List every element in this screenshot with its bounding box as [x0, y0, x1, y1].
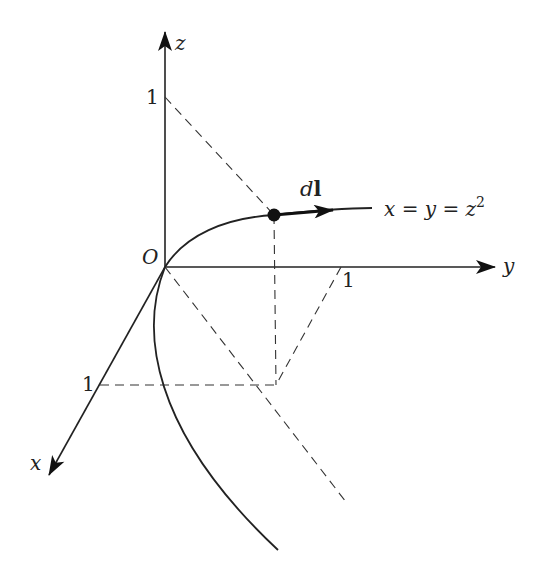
- point-marker-icon: [268, 209, 281, 222]
- dashed-point-vertical: [274, 215, 276, 385]
- curve-equation: x = y = z2: [384, 194, 485, 221]
- z-axis-tick-label: 1: [146, 85, 159, 109]
- dl-label: dl: [300, 176, 321, 201]
- x-axis: x 1: [30, 267, 165, 475]
- curve-lower-branch: [154, 267, 278, 550]
- z-axis-label: z: [174, 31, 186, 55]
- curve: [154, 208, 372, 550]
- dashed-z1-to-point: [165, 97, 274, 215]
- x-axis-arrow-icon: [49, 267, 165, 475]
- y-axis-tick-label: 1: [342, 268, 355, 292]
- z-axis: z 1: [146, 31, 186, 267]
- x-axis-tick-label: 1: [82, 372, 95, 396]
- construction-lines: [100, 97, 346, 502]
- x-axis-label: x: [30, 451, 41, 475]
- origin-label: O: [142, 245, 158, 269]
- y-axis: y 1: [165, 254, 515, 292]
- y-axis-label: y: [502, 254, 515, 278]
- line-integral-diagram: z 1 y 1 x 1 O dl x = y = z2: [0, 0, 535, 585]
- dashed-y1-to-base: [276, 267, 341, 385]
- dl-arrow-icon: [274, 210, 333, 215]
